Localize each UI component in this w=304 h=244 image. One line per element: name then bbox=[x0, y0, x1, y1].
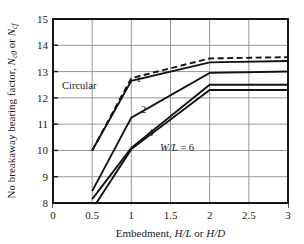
chart-figure: 15 14 13 12 11 10 9 8 0 0.5 1 1.5 2 2.5 … bbox=[0, 0, 304, 244]
y-tick-label: 11 bbox=[37, 118, 48, 130]
x-axis-title-prefix: Embedment, bbox=[116, 227, 175, 239]
y-tick-label: 10 bbox=[37, 144, 49, 156]
no-breakaway-bearing-factor-chart: 15 14 13 12 11 10 9 8 0 0.5 1 1.5 2 2.5 … bbox=[0, 0, 304, 244]
x-tick-label: 3 bbox=[285, 209, 291, 221]
x-axis-title-hd: H/D bbox=[205, 227, 225, 239]
annotation-wl-6: W/L = 6 bbox=[160, 142, 194, 153]
x-tick-label: 2 bbox=[207, 209, 213, 221]
annotation-wl-1: 1 bbox=[136, 73, 141, 84]
x-axis-title-or: or bbox=[192, 227, 207, 239]
annotation-circular: Circular bbox=[62, 80, 97, 91]
x-tick-label: 2.5 bbox=[242, 209, 256, 221]
y-tick-label: 14 bbox=[37, 39, 49, 51]
annotation-wl-6-symbol: W/L bbox=[160, 142, 178, 153]
x-tick-label: 1.5 bbox=[164, 209, 178, 221]
annotation-wl-6-value: = 6 bbox=[178, 142, 194, 153]
y-axis-title-n2-sub: cf bbox=[10, 23, 19, 29]
y-axis-title-prefix: No breakaway bearing factor, bbox=[5, 65, 17, 198]
x-tick-labels: 0 0.5 1 1.5 2 2.5 3 bbox=[50, 209, 291, 221]
y-tick-label: 9 bbox=[43, 171, 49, 183]
x-axis-title: Embedment, H/L or H/D bbox=[116, 227, 225, 239]
svg-text:Embedment, H/L or H/D: Embedment, H/L or H/D bbox=[116, 227, 225, 239]
y-tick-label: 15 bbox=[37, 13, 49, 25]
y-axis-title-or: or bbox=[5, 36, 17, 51]
annotation-wl-4: 4 bbox=[148, 127, 154, 138]
x-tick-label: 0 bbox=[50, 209, 56, 221]
x-tick-label: 0.5 bbox=[85, 209, 99, 221]
y-tick-label: 13 bbox=[37, 66, 49, 78]
y-tick-label: 12 bbox=[37, 92, 48, 104]
annotation-wl-2: 2 bbox=[141, 104, 146, 115]
x-tick-label: 1 bbox=[129, 209, 135, 221]
y-tick-label: 8 bbox=[43, 197, 49, 209]
x-axis-title-hl: H/L bbox=[173, 227, 191, 239]
